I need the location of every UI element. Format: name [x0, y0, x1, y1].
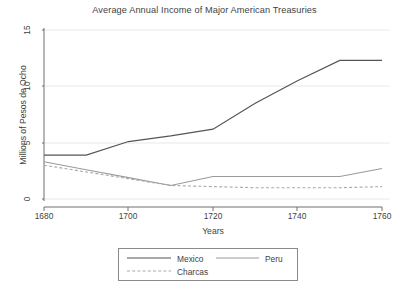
x-tick-1680: 1680: [24, 211, 64, 221]
x-tick-1700: 1700: [108, 211, 148, 221]
chart-legend: Mexico Peru Charcas: [118, 248, 298, 281]
chart-figure: Average Annual Income of Major American …: [0, 0, 409, 289]
x-tick-1720: 1720: [193, 211, 233, 221]
axis-spines: [42, 28, 382, 211]
x-tick-1760: 1760: [362, 211, 402, 221]
data-series-group: [44, 60, 382, 187]
plot-area: [0, 0, 409, 289]
x-axis-label: Years: [44, 226, 382, 236]
legend-label-peru: Peru: [265, 254, 283, 264]
legend-label-mexico: Mexico: [177, 254, 204, 264]
legend-label-charcas: Charcas: [177, 267, 208, 277]
x-tick-1740: 1740: [277, 211, 317, 221]
series-line-peru: [44, 162, 382, 186]
series-line-mexico: [44, 60, 382, 155]
